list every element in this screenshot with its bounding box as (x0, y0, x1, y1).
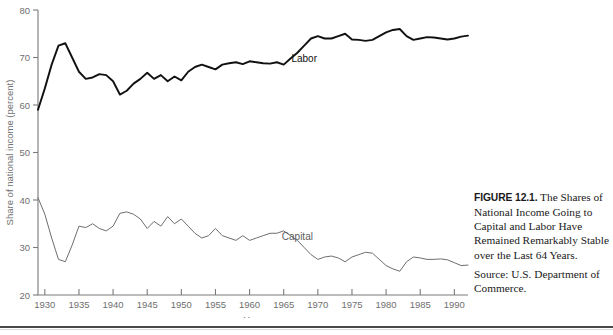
series-label-capital: Capital (282, 231, 313, 242)
y-tick-label: 60 (19, 100, 30, 111)
x-axis-title: Year (243, 314, 262, 318)
series-label-labor: Labor (291, 53, 317, 64)
x-tick-label: 1935 (68, 299, 89, 310)
y-tick-label: 30 (19, 242, 30, 253)
x-tick-label: 1990 (444, 299, 465, 310)
axis-lines (38, 10, 468, 295)
series-line-capital (38, 198, 468, 272)
x-tick-label: 1970 (307, 299, 328, 310)
x-tick-label: 1930 (34, 299, 55, 310)
y-tick-label: 20 (19, 290, 30, 301)
x-tick-label: 1950 (171, 299, 192, 310)
x-tick-label: 1960 (239, 299, 260, 310)
x-tick-label: 1965 (273, 299, 294, 310)
x-tick-label: 1945 (137, 299, 158, 310)
y-tick-label: 50 (19, 147, 30, 158)
bottom-divider-shadow (0, 329, 613, 330)
x-tick-label: 1940 (103, 299, 124, 310)
line-chart: 2030405060708019301935194019451950195519… (0, 0, 470, 318)
chart-panel: 2030405060708019301935194019451950195519… (0, 0, 470, 318)
caption-source: Source: U.S. Department of Commerce. (474, 267, 613, 295)
x-tick-label: 1980 (376, 299, 397, 310)
x-tick-label: 1955 (205, 299, 226, 310)
y-tick-label: 80 (19, 5, 30, 16)
y-axis-title: Share of national income (percent) (4, 80, 15, 226)
y-tick-label: 40 (19, 195, 30, 206)
y-tick-label: 70 (19, 52, 30, 63)
x-tick-label: 1985 (410, 299, 431, 310)
bottom-divider (0, 326, 613, 328)
figure-12-1: 2030405060708019301935194019451950195519… (0, 0, 613, 335)
series-line-labor (38, 29, 468, 110)
caption-body: FIGURE 12.1. The Shares of National Inco… (474, 190, 613, 262)
x-tick-label: 1975 (341, 299, 362, 310)
caption-figure-number: FIGURE 12.1. (474, 192, 537, 203)
figure-caption: FIGURE 12.1. The Shares of National Inco… (474, 190, 613, 295)
